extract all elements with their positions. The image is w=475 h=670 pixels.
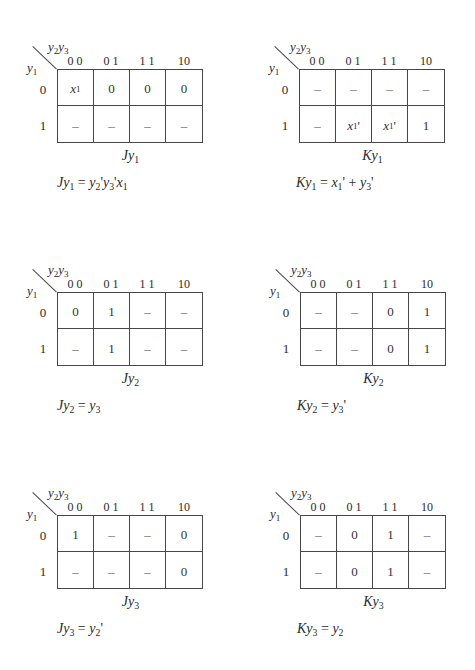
kmap-cell: x1	[58, 70, 94, 106]
kmap-cell: 1	[94, 293, 130, 329]
column-header: 0 1	[93, 277, 129, 291]
row-header: 0	[36, 528, 50, 544]
column-header: 0 0	[300, 277, 336, 291]
kmap-cell: –	[301, 329, 337, 365]
kmap-jy3: y2y3y10 00 11 110011––0–––0Jy3Jy3 = y2'	[57, 515, 202, 588]
column-header: 10	[409, 277, 445, 291]
kmap-cell: –	[337, 329, 373, 365]
row-variable-label: y1	[27, 283, 37, 299]
kmap-caption: Jy1	[57, 147, 204, 165]
kmap-cell: –	[130, 552, 166, 588]
kmap-cell: –	[58, 329, 94, 365]
row-variable-label: y1	[27, 60, 37, 76]
kmap-equation: Ky1 = x1' + y3'	[296, 174, 374, 192]
row-header: 1	[279, 564, 293, 580]
column-variables-label: y2y3	[48, 262, 69, 278]
kmap-cell: 0	[166, 552, 202, 588]
column-header: 0 0	[57, 500, 93, 514]
row-header: 1	[36, 118, 50, 134]
column-header: 0 0	[300, 500, 336, 514]
kmap-grid: –––––x1'x1'1	[299, 69, 445, 143]
kmap-cell: –	[337, 293, 373, 329]
kmap-cell: –	[166, 106, 202, 142]
kmap-cell: 0	[58, 293, 94, 329]
row-header: 0	[279, 528, 293, 544]
row-header: 1	[278, 118, 292, 134]
row-header: 0	[279, 305, 293, 321]
column-header: 10	[166, 277, 202, 291]
kmap-cell: –	[94, 106, 130, 142]
column-variables-label: y2y3	[48, 39, 69, 55]
kmap-cell: 0	[373, 329, 409, 365]
kmap-caption: Ky2	[300, 370, 447, 388]
column-header: 1 1	[129, 500, 165, 514]
row-header: 1	[36, 341, 50, 357]
kmap-cell: –	[58, 106, 94, 142]
column-header: 0 1	[335, 54, 371, 68]
kmap-cell: 0	[337, 516, 373, 552]
kmap-cell: 1	[58, 516, 94, 552]
kmap-grid: 1––0–––0	[57, 515, 203, 589]
column-header: 0 0	[57, 277, 93, 291]
kmap-grid: ––01––01	[300, 292, 446, 366]
kmap-cell: x1'	[336, 106, 372, 142]
kmap-equation: Jy2 = y3	[57, 397, 100, 415]
kmap-ky2: y2y3y10 00 11 11001––01––01Ky2Ky2 = y3'	[300, 292, 445, 365]
kmap-equation: Ky3 = y2	[297, 620, 344, 638]
column-header: 0 0	[299, 54, 335, 68]
kmap-ky3: y2y3y10 00 11 11001–01––01–Ky3Ky3 = y2	[300, 515, 445, 588]
column-header: 10	[166, 500, 202, 514]
kmap-caption: Ky3	[300, 593, 447, 611]
kmap-ky1: y2y3y10 00 11 11001–––––x1'x1'1Ky1Ky1 = …	[299, 69, 444, 142]
kmap-jy1: y2y3y10 00 11 11001x1000––––Jy1Jy1 = y2'…	[57, 69, 202, 142]
row-header: 0	[36, 82, 50, 98]
kmap-grid: –01––01–	[300, 515, 446, 589]
row-variable-label: y1	[270, 283, 280, 299]
kmap-cell: –	[301, 552, 337, 588]
kmap-cell: 1	[94, 329, 130, 365]
kmap-cell: –	[166, 329, 202, 365]
kmap-equation: Jy3 = y2'	[57, 620, 103, 638]
column-header: 0 0	[57, 54, 93, 68]
row-header: 1	[36, 564, 50, 580]
column-header: 0 1	[336, 500, 372, 514]
column-header: 1 1	[129, 277, 165, 291]
column-header: 1 1	[372, 500, 408, 514]
kmap-cell: –	[301, 516, 337, 552]
kmap-cell: –	[409, 552, 445, 588]
column-variables-label: y2y3	[291, 485, 312, 501]
kmap-cell: 1	[373, 516, 409, 552]
kmap-grid: 01–––1––	[57, 292, 203, 366]
kmap-cell: –	[372, 70, 408, 106]
column-header: 1 1	[129, 54, 165, 68]
kmap-cell: 0	[166, 70, 202, 106]
kmap-cell: –	[300, 70, 336, 106]
column-variables-label: y2y3	[48, 485, 69, 501]
column-header: 10	[166, 54, 202, 68]
kmap-cell: 0	[373, 293, 409, 329]
kmap-cell: 1	[409, 329, 445, 365]
column-header: 1 1	[371, 54, 407, 68]
kmap-grid: x1000––––	[57, 69, 203, 143]
kmap-equation: Ky2 = y3'	[297, 397, 346, 415]
kmap-cell: 0	[130, 70, 166, 106]
kmap-cell: –	[166, 293, 202, 329]
kmap-cell: –	[130, 329, 166, 365]
column-variables-label: y2y3	[291, 262, 312, 278]
kmap-cell: –	[130, 106, 166, 142]
column-header: 0 1	[93, 500, 129, 514]
column-header: 0 1	[336, 277, 372, 291]
kmap-cell: –	[408, 70, 444, 106]
kmap-cell: 0	[166, 516, 202, 552]
kmap-cell: –	[409, 516, 445, 552]
kmap-equation: Jy1 = y2'y3'x1	[57, 174, 128, 192]
kmap-cell: 1	[408, 106, 444, 142]
kmap-cell: 0	[337, 552, 373, 588]
kmap-cell: –	[301, 293, 337, 329]
kmap-cell: –	[336, 70, 372, 106]
column-header: 0 1	[93, 54, 129, 68]
column-header: 10	[408, 54, 444, 68]
kmap-jy2: y2y3y10 00 11 1100101–––1––Jy2Jy2 = y3	[57, 292, 202, 365]
row-variable-label: y1	[27, 506, 37, 522]
kmap-cell: –	[94, 516, 130, 552]
